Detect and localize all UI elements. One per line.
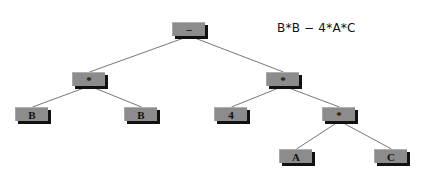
tree-node-root: − xyxy=(172,22,205,36)
tree-node-mul_left: * xyxy=(72,72,105,86)
tree-edge-mul_inner-a xyxy=(297,121,340,149)
expression-formula: B*B − 4*A*C xyxy=(277,21,356,35)
tree-node-four: 4 xyxy=(214,107,247,121)
tree-edge-mul_left-b1 xyxy=(33,86,90,107)
node-label: − xyxy=(172,22,205,36)
node-label: * xyxy=(72,72,105,86)
tree-node-b1: B xyxy=(15,107,48,121)
tree-edge-mul_left-b2 xyxy=(90,86,142,107)
tree-edges xyxy=(0,0,428,179)
node-label: B xyxy=(15,107,48,121)
node-label: 4 xyxy=(214,107,247,121)
tree-edge-mul_inner-c xyxy=(340,121,392,149)
node-label: B xyxy=(124,107,157,121)
tree-node-mul_inner: * xyxy=(322,107,355,121)
expression-tree-diagram: −**BB4*AC B*B − 4*A*C xyxy=(0,0,428,179)
tree-node-mul_right: * xyxy=(266,72,299,86)
node-label: * xyxy=(266,72,299,86)
tree-edge-root-mul_left xyxy=(90,36,190,72)
tree-node-b2: B xyxy=(124,107,157,121)
tree-node-a: A xyxy=(279,149,312,163)
tree-edge-mul_right-mul_inner xyxy=(284,86,340,107)
tree-node-c: C xyxy=(374,149,407,163)
node-label: * xyxy=(322,107,355,121)
tree-edge-mul_right-four xyxy=(232,86,284,107)
node-label: C xyxy=(374,149,407,163)
node-label: A xyxy=(279,149,312,163)
tree-edge-root-mul_right xyxy=(190,36,284,72)
